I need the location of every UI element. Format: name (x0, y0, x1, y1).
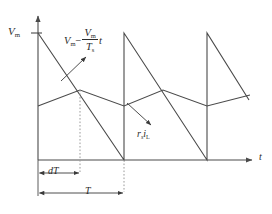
y-axis-peak-symbol: V (8, 25, 15, 37)
period-label: T (85, 186, 91, 196)
ramp-equation-label: Vm−VmTst (64, 27, 102, 53)
ripple-current-label: rsiL (137, 129, 150, 140)
waveform-plot (0, 0, 272, 214)
ramp-eq-num-subscript: m (91, 32, 96, 39)
ramp-eq-time-symbol: t (99, 35, 102, 46)
duty-interval-label: dT (48, 166, 59, 176)
y-axis-peak-label: Vm (8, 26, 20, 39)
ripple-current-subscript: L (146, 133, 150, 140)
ramp-eq-numerator: Vm (82, 27, 97, 39)
ripple-current-waveform (38, 90, 250, 106)
x-axis-label: t (259, 152, 262, 162)
y-axis-peak-subscript: m (15, 31, 20, 38)
ramp-eq-den-subscript: s (92, 46, 95, 53)
waveform-figure: Vm t Vm−VmTst rsiL dT T (0, 0, 272, 214)
ramp-equation-leader-arrow (61, 57, 86, 81)
ramp-eq-fraction: VmTs (82, 27, 97, 53)
ripple-label-leader-arrow (127, 103, 151, 125)
ramp-eq-minus-sign: − (75, 35, 81, 46)
ramp-eq-denominator: Ts (82, 41, 97, 53)
